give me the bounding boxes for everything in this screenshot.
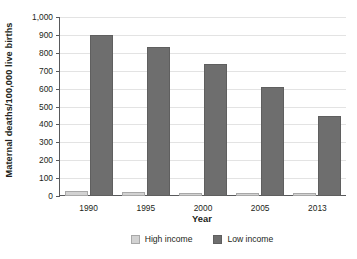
y-axis-tick: [56, 17, 60, 18]
x-axis-tick-label: 1995: [136, 203, 155, 213]
legend-swatch-icon: [213, 235, 222, 244]
x-axis-title-label: Year: [192, 213, 212, 224]
y-axis-tick: [56, 89, 60, 90]
y-axis-tick-label: 900: [39, 30, 53, 40]
bar-low-income-2005: [261, 87, 284, 196]
y-axis-tick: [56, 71, 60, 72]
y-axis-tick-label: 200: [39, 155, 53, 165]
bar-high-income-1990: [65, 191, 88, 196]
y-axis-tick-label: 1,000: [32, 12, 53, 22]
x-axis-tick-label: 2013: [308, 203, 327, 213]
y-axis-tick-label: 600: [39, 84, 53, 94]
y-axis-tick-label: 0: [48, 191, 53, 201]
x-axis-tick-label: 2000: [194, 203, 213, 213]
y-axis-tick: [56, 35, 60, 36]
y-axis-tick-label: 300: [39, 137, 53, 147]
bar-high-income-1995: [122, 192, 145, 196]
legend-swatch-icon: [131, 235, 140, 244]
y-axis-tick: [56, 53, 60, 54]
x-axis-title: Year: [59, 213, 345, 224]
y-axis-tick: [56, 196, 60, 197]
y-axis-tick-label: 100: [39, 173, 53, 183]
y-axis-tick: [56, 124, 60, 125]
bar-high-income-2005: [236, 193, 259, 196]
bar-high-income-2013: [293, 193, 316, 196]
bar-high-income-2000: [179, 193, 202, 196]
y-axis-tick-label: 500: [39, 102, 53, 112]
bar-low-income-2013: [318, 116, 341, 196]
legend-item-label: High income: [145, 234, 193, 244]
chart-legend: High incomeLow income: [59, 234, 345, 244]
y-axis-title: Maternal deaths/100,000 live births: [0, 0, 18, 200]
y-axis-tick-label: 400: [39, 119, 53, 129]
legend-item-label: Low income: [227, 234, 273, 244]
x-axis-tick-label: 1990: [79, 203, 98, 213]
legend-item-low-income[interactable]: Low income: [213, 234, 273, 244]
legend-item-high-income[interactable]: High income: [131, 234, 193, 244]
bar-low-income-2000: [204, 64, 227, 196]
bar-low-income-1990: [90, 35, 113, 196]
y-axis-tick-label: 700: [39, 66, 53, 76]
y-axis-tick: [56, 142, 60, 143]
y-axis-tick: [56, 107, 60, 108]
y-axis-tick: [56, 178, 60, 179]
x-axis-tick-label: 2005: [251, 203, 270, 213]
y-axis-tick: [56, 160, 60, 161]
y-axis-tick-label: 800: [39, 48, 53, 58]
bar-low-income-1995: [147, 47, 170, 196]
y-axis-title-label: Maternal deaths/100,000 live births: [4, 22, 14, 177]
plot-area: 01002003004005006007008009001,0001990199…: [59, 17, 345, 196]
gridline: [60, 17, 346, 18]
maternal-mortality-bar-chart: Maternal deaths/100,000 live births 0100…: [0, 0, 357, 259]
